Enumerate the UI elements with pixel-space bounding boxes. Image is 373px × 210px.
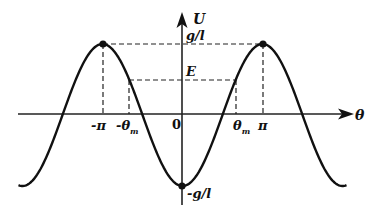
origin-label: 0 (172, 118, 181, 131)
max-point-neg-pi (99, 40, 106, 47)
y-tick-bottom: -g/l (187, 187, 211, 200)
x-tick-theta-m-text: θ (233, 118, 242, 133)
x-tick-neg-theta-m-text: -θ (116, 118, 130, 133)
x-tick-neg-theta-m: -θm (116, 119, 139, 135)
max-point-pi (259, 40, 266, 47)
x-tick-pi-text: π (258, 118, 268, 133)
min-point-origin (178, 182, 185, 189)
y-tick-energy: E (186, 65, 196, 78)
x-tick-neg-pi: -π (91, 119, 106, 132)
y-axis-label: U (193, 12, 205, 26)
x-axis-label: θ (355, 108, 364, 122)
y-tick-top: g/l (186, 29, 205, 42)
x-tick-neg-pi-text: -π (91, 118, 106, 133)
dashed-guides (103, 44, 263, 114)
x-tick-pi: π (258, 119, 268, 132)
x-tick-neg-theta-m-sub: m (130, 126, 138, 136)
x-tick-theta-m: θm (233, 119, 250, 135)
x-tick-theta-m-sub: m (242, 126, 250, 136)
